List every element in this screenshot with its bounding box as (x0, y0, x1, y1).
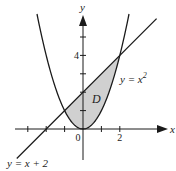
y-tick-label: 4 (74, 50, 79, 61)
y-axis-arrow-icon (79, 15, 87, 26)
parabola-exponent: 2 (143, 71, 147, 80)
x-axis-arrow-icon (157, 125, 168, 133)
line-curve (17, 19, 157, 159)
region-label-D: D (91, 92, 101, 106)
x-axis-label: x (169, 123, 175, 135)
y-axis-label: y (79, 1, 85, 13)
y-tick-labels: 4 (74, 50, 79, 61)
x-tick-label: 2 (117, 132, 122, 143)
parabola-equation-label: y = x2 (119, 71, 147, 85)
x-tick-label: 0 (76, 132, 81, 143)
parabola-equation-text: y = x (119, 73, 143, 85)
region-diagram: x y 02 4 D y = x2 y = x + 2 (0, 0, 176, 171)
line-equation-label: y = x + 2 (6, 157, 49, 169)
